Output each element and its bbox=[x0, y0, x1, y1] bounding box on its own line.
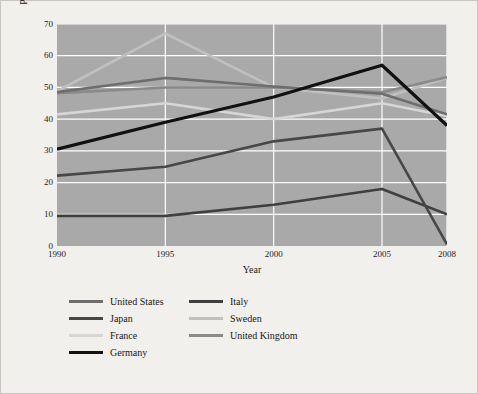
y-tick-label: 40 bbox=[25, 115, 53, 124]
x-tick-label: 2000 bbox=[265, 249, 283, 259]
chart-figure: Percentage of marriages that end in divo… bbox=[0, 0, 478, 394]
x-tick-label: 2005 bbox=[373, 249, 391, 259]
legend-label: Japan bbox=[110, 313, 133, 324]
series-line-japan bbox=[57, 129, 447, 245]
x-tick-label: 1995 bbox=[156, 249, 174, 259]
legend-swatch-icon bbox=[69, 351, 103, 354]
legend-swatch-icon bbox=[69, 300, 103, 303]
legend-label: United Kingdom bbox=[230, 330, 298, 341]
plot-area bbox=[57, 24, 447, 246]
legend-swatch-icon bbox=[189, 300, 223, 303]
legend-swatch-icon bbox=[69, 317, 103, 320]
legend-column: United StatesJapanFranceGermany bbox=[69, 293, 164, 361]
y-tick-label: 50 bbox=[25, 83, 53, 92]
legend-label: Sweden bbox=[230, 313, 262, 324]
y-tick-label: 20 bbox=[25, 178, 53, 187]
x-tick-label: 1990 bbox=[48, 249, 66, 259]
legend-item-united-kingdom[interactable]: United Kingdom bbox=[189, 327, 298, 344]
legend-label: Germany bbox=[110, 347, 147, 358]
x-axis-label: Year bbox=[57, 264, 447, 275]
legend-item-germany[interactable]: Germany bbox=[69, 344, 164, 361]
legend-item-italy[interactable]: Italy bbox=[189, 293, 298, 310]
y-tick-label: 10 bbox=[25, 210, 53, 219]
legend-swatch-icon bbox=[69, 334, 103, 337]
legend-label: France bbox=[110, 330, 137, 341]
series-line-italy bbox=[57, 189, 447, 216]
legend-item-united-states[interactable]: United States bbox=[69, 293, 164, 310]
y-axis-ticks: 010203040506070 bbox=[23, 1, 53, 394]
x-axis-ticks: 19901995200020052008 bbox=[1, 249, 478, 263]
legend-label: United States bbox=[110, 296, 164, 307]
legend-swatch-icon bbox=[189, 334, 223, 337]
legend-swatch-icon bbox=[189, 317, 223, 320]
y-tick-label: 30 bbox=[25, 146, 53, 155]
legend-item-france[interactable]: France bbox=[69, 327, 164, 344]
plot-svg bbox=[57, 24, 447, 246]
legend-column: ItalySwedenUnited Kingdom bbox=[189, 293, 298, 344]
series-line-france bbox=[57, 103, 447, 119]
legend-item-japan[interactable]: Japan bbox=[69, 310, 164, 327]
legend-item-sweden[interactable]: Sweden bbox=[189, 310, 298, 327]
y-tick-label: 60 bbox=[25, 51, 53, 60]
y-tick-label: 70 bbox=[25, 20, 53, 29]
series-lines bbox=[57, 34, 447, 245]
x-tick-label: 2008 bbox=[438, 249, 456, 259]
legend-label: Italy bbox=[230, 296, 248, 307]
